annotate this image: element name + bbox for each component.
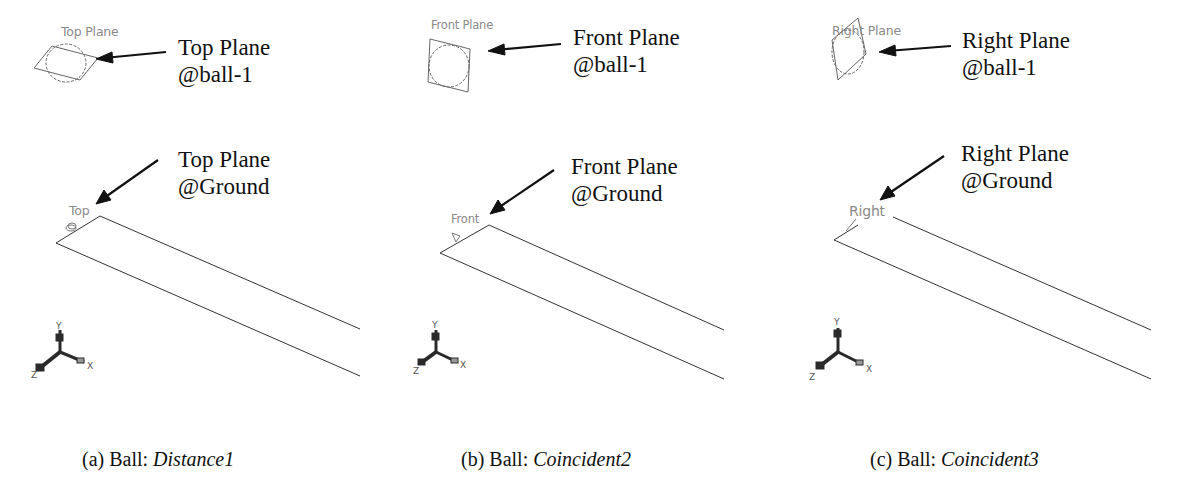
cad-plane-label: Right Plane [832, 23, 901, 38]
caption-c: (c) Ball: Coincident3 [870, 448, 1039, 471]
arrow-icon [880, 156, 944, 200]
cad-ground-label: Right [849, 203, 885, 219]
callout-ground-plane: Right Plane @Ground [961, 140, 1069, 194]
arrow-icon [879, 45, 951, 56]
callout-ball-plane: Right Plane @ball-1 [962, 27, 1070, 81]
svg-text:Y: Y [833, 317, 840, 327]
svg-text:X: X [866, 364, 872, 374]
coordinate-triad-icon: Y Z X [809, 317, 872, 382]
panel-c: Y Z X Right Plane Right Right Plane @bal… [0, 0, 1179, 491]
svg-text:Z: Z [809, 372, 815, 382]
